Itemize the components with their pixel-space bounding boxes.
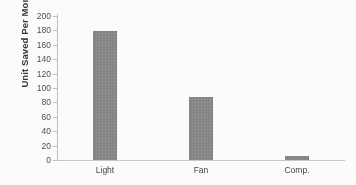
y-axis-title: Unit Saved Per Month <box>19 0 30 102</box>
y-tick-mark <box>53 131 57 132</box>
y-tick-mark <box>53 102 57 103</box>
y-tick-mark <box>53 59 57 60</box>
y-tick-mark <box>53 74 57 75</box>
y-tick-label: 160 <box>37 41 51 50</box>
y-tick-mark <box>53 45 57 46</box>
x-axis-label: Light <box>96 166 114 175</box>
x-axis-line <box>57 160 345 161</box>
y-tick-mark <box>53 146 57 147</box>
y-tick-mark <box>53 117 57 118</box>
bar <box>189 97 213 160</box>
y-tick-label: 60 <box>42 113 51 122</box>
y-tick-label: 120 <box>37 69 51 78</box>
y-tick-mark <box>53 88 57 89</box>
y-tick-label: 80 <box>42 98 51 107</box>
y-tick-label: 200 <box>37 12 51 21</box>
y-tick-label: 0 <box>46 156 51 165</box>
y-tick-mark <box>53 160 57 161</box>
bar <box>93 31 117 160</box>
bar-chart: Unit Saved Per Month 0204060801001201401… <box>0 0 356 185</box>
y-tick-mark <box>53 16 57 17</box>
y-tick-label: 180 <box>37 26 51 35</box>
plot-area: 020406080100120140160180200 <box>57 16 345 160</box>
x-axis-label: Comp. <box>284 166 309 175</box>
y-tick-mark <box>53 30 57 31</box>
bar <box>285 156 309 160</box>
y-tick-label: 100 <box>37 84 51 93</box>
y-tick-label: 140 <box>37 55 51 64</box>
x-axis-label: Fan <box>194 166 209 175</box>
y-tick-label: 40 <box>42 127 51 136</box>
y-tick-label: 20 <box>42 141 51 150</box>
